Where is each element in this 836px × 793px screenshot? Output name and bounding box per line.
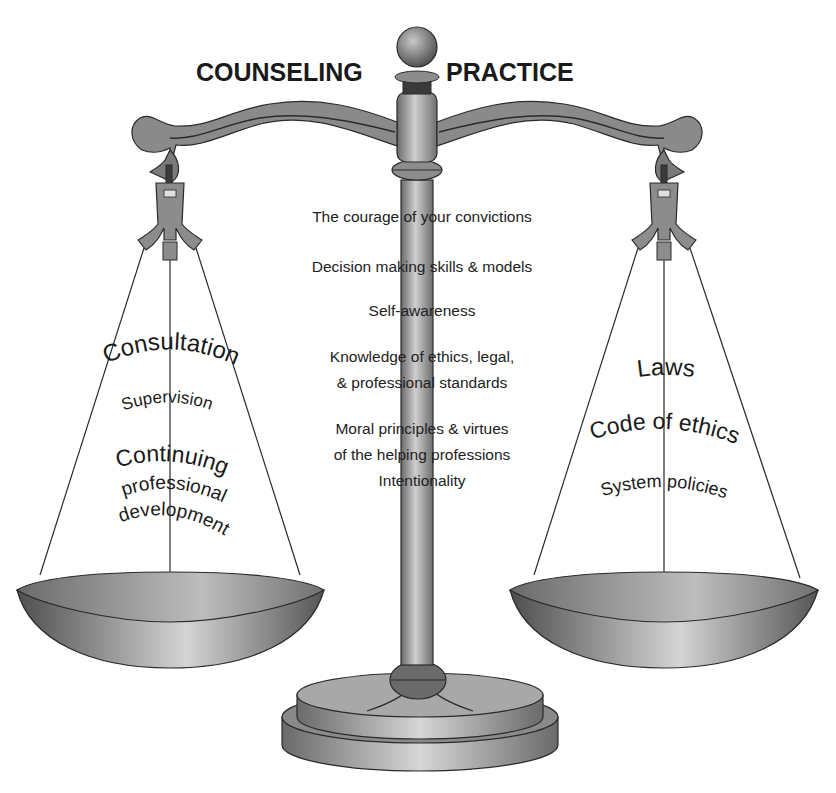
center-item: Knowledge of ethics, legal, bbox=[330, 348, 514, 365]
right-strings bbox=[534, 248, 800, 622]
left-strings bbox=[40, 248, 300, 622]
title-left: COUNSELING bbox=[196, 58, 363, 86]
scale-pole bbox=[392, 27, 442, 665]
right-pan-item: Laws bbox=[635, 353, 696, 382]
left-hanger bbox=[138, 150, 202, 260]
center-item: Decision making skills & models bbox=[312, 258, 533, 275]
scale-base bbox=[282, 661, 558, 771]
center-item: Self-awareness bbox=[369, 302, 476, 319]
right-pan-labels: Laws Code of ethics System policies bbox=[587, 353, 744, 503]
center-item: The courage of your convictions bbox=[312, 208, 532, 225]
title-right: PRACTICE bbox=[446, 58, 574, 86]
scales-of-justice-diagram: COUNSELING PRACTICE The courage of your … bbox=[0, 0, 836, 793]
left-pan-labels: Consultation Supervision Continuing prof… bbox=[99, 327, 245, 539]
right-pan-item: Code of ethics bbox=[587, 408, 744, 449]
center-item: of the helping professions bbox=[334, 446, 511, 463]
right-hanger bbox=[632, 150, 696, 260]
left-pan-item: Consultation bbox=[99, 327, 245, 369]
left-pan bbox=[17, 572, 324, 668]
right-pan bbox=[510, 572, 818, 668]
center-item: Moral principles & virtues bbox=[335, 420, 508, 437]
left-pan-item: Supervision bbox=[119, 387, 215, 414]
left-pan-item: development bbox=[115, 498, 234, 539]
center-item: Intentionality bbox=[378, 472, 465, 489]
center-item: & professional standards bbox=[337, 374, 508, 391]
